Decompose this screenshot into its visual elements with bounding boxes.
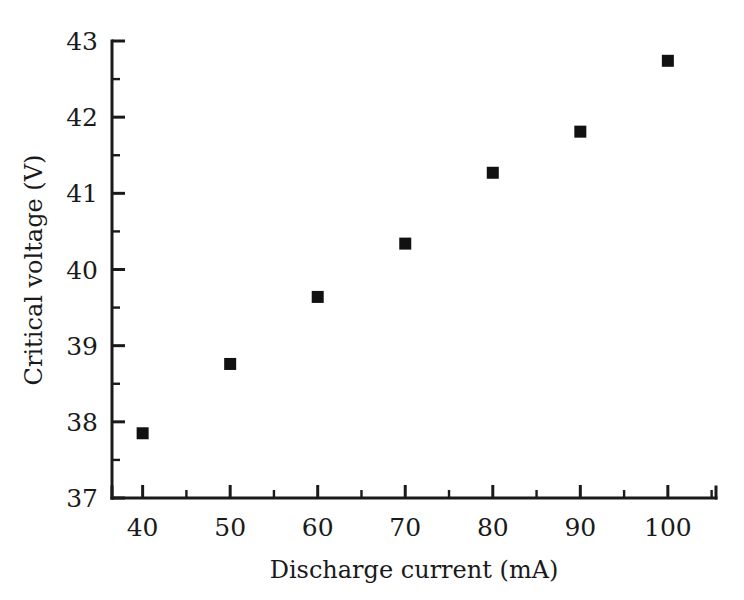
data-point bbox=[487, 167, 499, 179]
y-axis-tick-labels: 37383940414243 bbox=[66, 27, 98, 513]
x-axis-title: Discharge current (mA) bbox=[270, 556, 559, 584]
y-axis-title: Critical voltage (V) bbox=[20, 155, 48, 386]
y-tick-label: 38 bbox=[66, 408, 98, 437]
y-tick-label: 40 bbox=[66, 256, 98, 285]
data-point bbox=[137, 427, 149, 439]
data-point-markers bbox=[137, 55, 674, 439]
chart-figure: 37383940414243 405060708090100 Discharge… bbox=[0, 0, 744, 600]
y-tick-label: 39 bbox=[66, 332, 98, 361]
y-axis-major-ticks bbox=[112, 41, 125, 498]
y-tick-label: 41 bbox=[66, 179, 98, 208]
x-tick-label: 70 bbox=[389, 513, 421, 542]
x-axis-tick-labels: 405060708090100 bbox=[127, 513, 692, 542]
x-tick-label: 50 bbox=[214, 513, 246, 542]
x-axis-major-ticks bbox=[143, 485, 668, 498]
x-tick-label: 80 bbox=[477, 513, 509, 542]
data-point bbox=[399, 238, 411, 250]
axis-spines bbox=[112, 41, 716, 498]
data-point bbox=[312, 291, 324, 303]
x-tick-label: 100 bbox=[644, 513, 692, 542]
scatter-plot: 37383940414243 405060708090100 Discharge… bbox=[0, 0, 744, 600]
x-tick-label: 40 bbox=[127, 513, 159, 542]
y-tick-label: 43 bbox=[66, 27, 98, 56]
data-point bbox=[662, 55, 674, 67]
data-point bbox=[224, 358, 236, 370]
x-tick-label: 60 bbox=[302, 513, 334, 542]
y-tick-label: 37 bbox=[66, 484, 98, 513]
data-point bbox=[574, 126, 586, 138]
y-tick-label: 42 bbox=[66, 103, 98, 132]
x-tick-label: 90 bbox=[564, 513, 596, 542]
